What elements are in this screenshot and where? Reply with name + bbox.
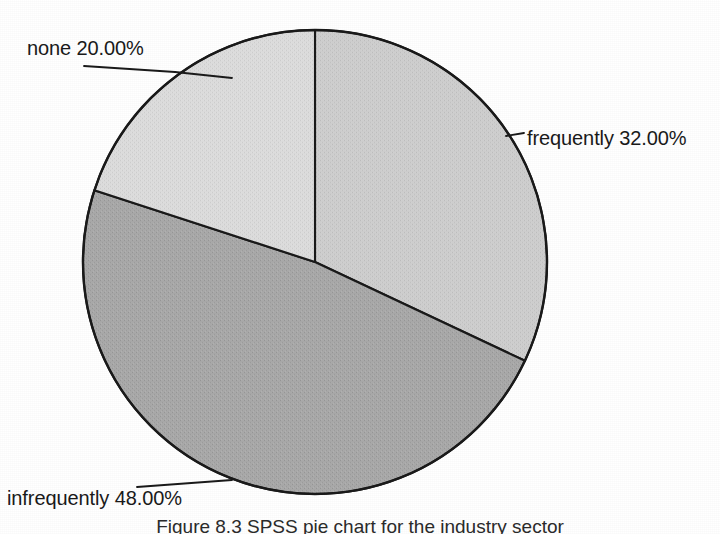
pie-label-infrequently: infrequently 48.00% [7,488,182,508]
pie-chart-graphic [0,0,720,534]
pie-label-none: none 20.00% [27,38,144,58]
pie-chart-figure: none 20.00% frequently 32.00% infrequent… [0,0,720,534]
leader-line-infrequently [137,480,232,487]
figure-caption: Figure 8.3 SPSS pie chart for the indust… [0,516,720,534]
pie-label-frequently: frequently 32.00% [527,128,687,148]
leader-line-none [84,66,175,72]
